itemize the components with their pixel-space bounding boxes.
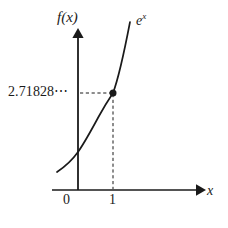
curve-label: ex <box>136 14 146 28</box>
y-axis-arrowhead <box>72 28 83 38</box>
x-axis-tick-label-1: 1 <box>109 193 116 207</box>
exponential-function-figure: f(x) ex x 2.71828⋯ 0 1 <box>0 0 228 228</box>
y-axis-label: f(x) <box>57 10 78 25</box>
marked-point-dot <box>110 90 117 97</box>
x-axis-tick-label-0: 0 <box>63 193 70 207</box>
y-value-label: 2.71828⋯ <box>8 85 68 99</box>
curve-label-exponent: x <box>142 11 146 21</box>
x-axis-label: x <box>207 184 213 198</box>
x-axis-arrowhead <box>196 184 206 195</box>
